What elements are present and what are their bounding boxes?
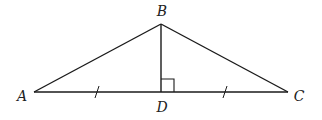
triangle-diagram: A B C D	[0, 0, 322, 120]
vertex-label-b: B	[157, 4, 167, 18]
vertex-label-a: A	[17, 89, 27, 103]
vertex-label-d: D	[156, 100, 167, 114]
right-angle-marker	[161, 79, 174, 92]
vertex-label-c: C	[294, 89, 305, 103]
segment-bc	[161, 24, 288, 92]
segment-ab	[34, 24, 161, 92]
